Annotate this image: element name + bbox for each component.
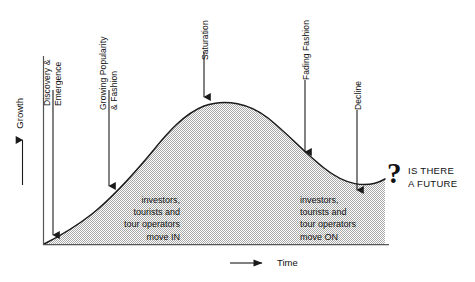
stage-label-growing-popularity: Growing Popularity & Fashion [98, 18, 119, 110]
stage-label-decline: Decline [353, 68, 364, 110]
life-cycle-curve-graphic [0, 0, 475, 282]
stage-label-fading-fashion: Fading Fashion [301, 12, 312, 80]
stage-label-saturation: Saturation [200, 10, 211, 60]
annotation-is-there-a-future: IS THERE A FUTURE [408, 165, 457, 190]
y-axis-label: Growth [14, 98, 25, 129]
annotation-investors-move-in: investors, tourists and tour operators m… [100, 194, 180, 243]
stage-label-discovery: Discovery & Emergence [42, 36, 63, 106]
question-mark-icon: ? [387, 159, 402, 188]
tourism-area-life-cycle-figure: Growth Discovery & Emergence Growing Pop… [0, 0, 475, 282]
x-axis-label: Time [277, 257, 298, 268]
annotation-investors-move-on: investors, tourists and tour operators m… [300, 194, 390, 243]
